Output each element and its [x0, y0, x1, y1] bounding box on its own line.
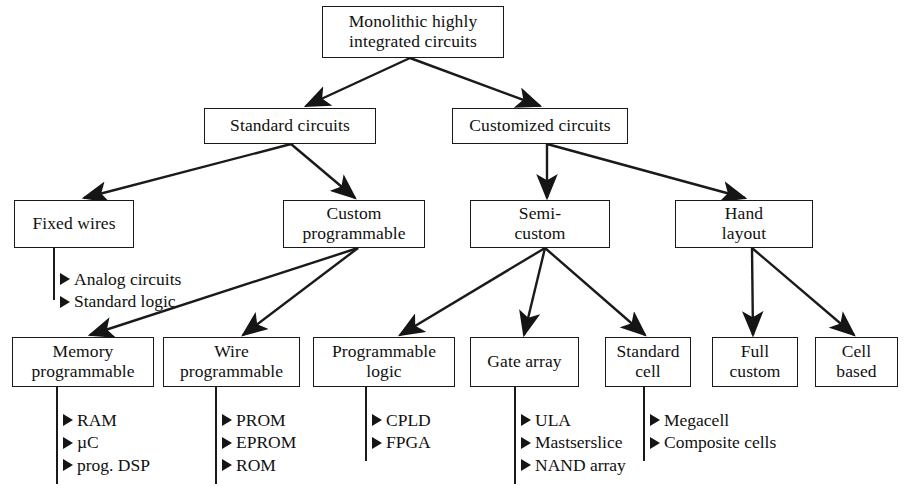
edge-handlayout-fullcustom: [752, 248, 753, 335]
triangle-right-icon: [650, 414, 660, 426]
bullet-list-standardcell-items: MegacellComposite cells: [650, 409, 776, 454]
bullet-label: RAM: [77, 409, 117, 431]
bullet-item: Megacell: [650, 409, 776, 431]
triangle-right-icon: [60, 296, 70, 308]
bullet-item: Mastserslice: [521, 431, 626, 453]
node-gatearray: Gate array: [470, 337, 579, 387]
node-proglogic: Programmable logic: [313, 337, 455, 387]
edge-root-standard: [306, 58, 410, 106]
bullet-label: NAND array: [535, 454, 626, 476]
edge-root-customized: [410, 58, 540, 106]
bullet-label: Megacell: [664, 409, 729, 431]
bullet-list-fixedwires-items: Analog circuitsStandard logic: [60, 268, 181, 313]
node-label: Standard circuits: [225, 116, 355, 136]
bullet-label: Standard logic: [74, 290, 176, 312]
edge-custprog-wireprog: [243, 248, 358, 335]
edge-semicustom-standardcell: [545, 248, 645, 335]
bullet-item: FPGA: [372, 431, 431, 453]
node-label: Cell based: [831, 342, 881, 381]
edge-standard-custprog: [291, 144, 355, 198]
node-root: Monolithic highly integrated circuits: [322, 6, 504, 58]
bullet-item: EPROM: [222, 431, 296, 453]
node-cellbased: Cell based: [815, 337, 898, 387]
bullet-item: prog. DSP: [63, 454, 150, 476]
bullet-label: EPROM: [236, 431, 296, 453]
diagram-canvas: Monolithic highly integrated circuitsSta…: [0, 0, 912, 496]
bullet-list-memprog-items: RAMµCprog. DSP: [63, 409, 150, 476]
triangle-right-icon: [521, 459, 531, 471]
node-semicustom: Semi- custom: [470, 200, 610, 248]
node-label: Full custom: [724, 342, 785, 381]
bullet-item: Composite cells: [650, 431, 776, 453]
node-label: Fixed wires: [27, 214, 120, 234]
node-label: Programmable logic: [327, 342, 441, 381]
node-label: Customized circuits: [464, 116, 615, 136]
edge-handlayout-cellbased: [752, 248, 854, 335]
node-label: Wire programmable: [175, 342, 288, 381]
triangle-right-icon: [372, 414, 382, 426]
bullet-item: Analog circuits: [60, 268, 181, 290]
triangle-right-icon: [650, 437, 660, 449]
triangle-right-icon: [60, 273, 70, 285]
bullet-label: Analog circuits: [74, 268, 181, 290]
triangle-right-icon: [521, 437, 531, 449]
triangle-right-icon: [63, 414, 73, 426]
node-label: Memory programmable: [26, 342, 139, 381]
bullet-item: ROM: [222, 454, 296, 476]
bullet-item: NAND array: [521, 454, 626, 476]
node-label: Monolithic highly integrated circuits: [344, 12, 483, 51]
node-label: Gate array: [482, 352, 566, 372]
edge-semicustom-gatearray: [524, 248, 545, 335]
bullet-list-proglogic-items: CPLDFPGA: [372, 409, 431, 454]
bullet-item: CPLD: [372, 409, 431, 431]
node-label: Semi- custom: [509, 204, 570, 243]
triangle-right-icon: [222, 414, 232, 426]
bullet-item: Standard logic: [60, 290, 181, 312]
edge-lines: [84, 58, 854, 335]
node-standard: Standard circuits: [204, 108, 376, 144]
node-label: Standard cell: [611, 342, 684, 381]
bullet-label: µC: [77, 431, 99, 453]
bullet-item: PROM: [222, 409, 296, 431]
triangle-right-icon: [521, 414, 531, 426]
bullet-item: RAM: [63, 409, 150, 431]
node-standardcell: Standard cell: [605, 337, 691, 387]
node-label: Custom programmable: [297, 204, 410, 243]
node-customized: Customized circuits: [452, 108, 628, 144]
bullet-label: CPLD: [386, 409, 431, 431]
node-custprog: Custom programmable: [283, 200, 425, 248]
bullet-item: ULA: [521, 409, 626, 431]
triangle-right-icon: [222, 459, 232, 471]
edge-customized-handlayout: [547, 144, 745, 198]
bullet-label: PROM: [236, 409, 286, 431]
edge-standard-fixedwires: [84, 144, 291, 198]
triangle-right-icon: [222, 437, 232, 449]
bullet-label: ROM: [236, 454, 276, 476]
triangle-right-icon: [63, 437, 73, 449]
triangle-right-icon: [63, 459, 73, 471]
triangle-right-icon: [372, 437, 382, 449]
bullet-label: Composite cells: [664, 431, 776, 453]
bullet-label: prog. DSP: [77, 454, 150, 476]
bullet-list-wireprog-items: PROMEPROMROM: [222, 409, 296, 476]
bullet-label: ULA: [535, 409, 571, 431]
node-fixedwires: Fixed wires: [14, 200, 134, 248]
node-wireprog: Wire programmable: [163, 337, 300, 387]
bullet-label: Mastserslice: [535, 431, 622, 453]
node-memprog: Memory programmable: [12, 337, 154, 387]
edge-semicustom-proglogic: [400, 248, 545, 335]
bullet-list-gatearray-items: ULAMastsersliceNAND array: [521, 409, 626, 476]
bullet-item: µC: [63, 431, 150, 453]
node-fullcustom: Full custom: [712, 337, 798, 387]
node-label: Hand layout: [717, 204, 771, 243]
bullet-label: FPGA: [386, 431, 431, 453]
node-handlayout: Hand layout: [675, 200, 813, 248]
